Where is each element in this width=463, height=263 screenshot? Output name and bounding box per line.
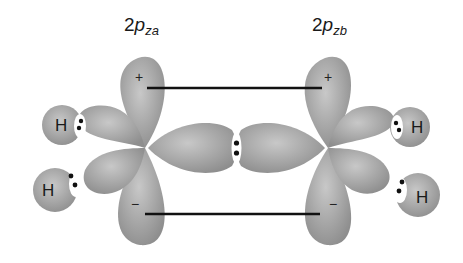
svg-text:H: H bbox=[416, 188, 428, 207]
cc-sigma-bond-right bbox=[237, 123, 326, 173]
svg-text:H: H bbox=[55, 116, 67, 135]
shared-electron-region bbox=[232, 132, 242, 164]
hydrogen-atom-lower-left: H bbox=[33, 168, 83, 212]
hydrogen-atom-lower-right: H bbox=[393, 173, 440, 217]
orbital-label-2pzb: 2pzb bbox=[312, 14, 347, 38]
electron-dot bbox=[234, 150, 239, 155]
orbital-diagram-svg: H H H H + + − − bbox=[0, 0, 463, 263]
positive-sign-right: + bbox=[324, 69, 332, 85]
negative-sign-right: − bbox=[329, 196, 337, 212]
ethylene-pi-bond-diagram: H H H H + + − − 2pza 2pzb bbox=[0, 0, 463, 263]
orbital-label-2pza: 2pza bbox=[124, 14, 159, 38]
cc-sigma-bond-left bbox=[148, 123, 237, 173]
hydrogen-atom-upper-left: H bbox=[42, 105, 86, 145]
svg-text:H: H bbox=[411, 118, 423, 137]
negative-sign-left: − bbox=[131, 196, 139, 212]
hydrogen-atom-upper-right: H bbox=[390, 107, 430, 147]
positive-sign-left: + bbox=[135, 69, 143, 85]
electron-dot bbox=[234, 140, 239, 145]
svg-text:H: H bbox=[42, 181, 54, 200]
